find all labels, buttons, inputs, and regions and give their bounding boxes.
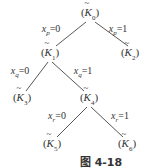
edge-k0-k1 [56, 22, 86, 46]
edge-label-xp0: xp=0 [42, 23, 61, 37]
edge-label-xp1: xp=1 [109, 23, 128, 37]
edge-k1-k3 [26, 62, 48, 91]
node-k6: (K6) [118, 137, 136, 152]
node-k5: (K5) [43, 137, 61, 152]
node-k2: (K2) [121, 46, 139, 61]
edge-label-xr0: xr=0 [48, 110, 66, 124]
node-k4: (K4) [80, 91, 98, 106]
edge-label-xq0: xq=0 [11, 65, 30, 79]
edge-label-xq1: xq=1 [74, 65, 93, 79]
node-k0: (K0) [81, 6, 99, 21]
edge-label-xr1: xr=1 [111, 110, 129, 124]
node-k1: (K1) [41, 46, 59, 61]
figure-caption: 图 4-18 [80, 153, 122, 168]
node-k3: (K3) [13, 91, 31, 106]
